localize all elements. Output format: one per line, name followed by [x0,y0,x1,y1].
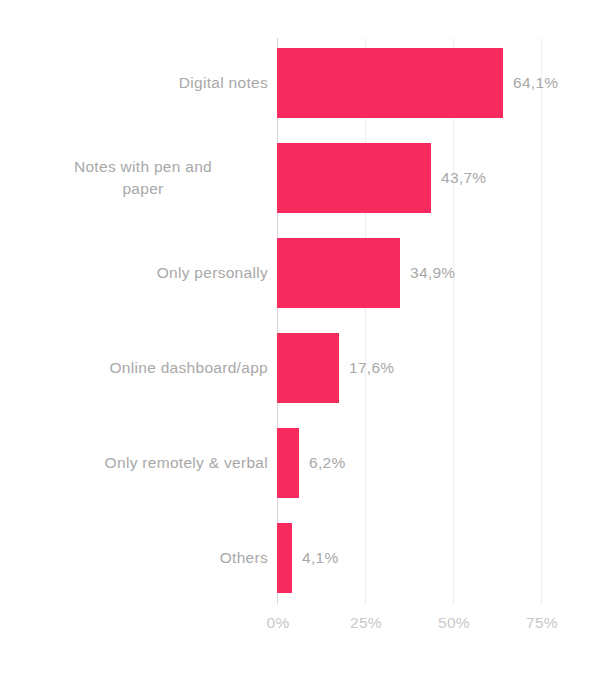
gridline-25 [365,38,366,604]
category-label: Notes with pen and paper [18,143,268,213]
category-label: Digital notes [18,48,268,118]
bar-online-dashboard-app[interactable] [277,333,339,403]
bar-row: Only personally 34,9% [0,238,605,308]
bar-row: Only remotely & verbal 6,2% [0,428,605,498]
category-label: Only personally [18,238,268,308]
category-label: Only remotely & verbal [18,428,268,498]
gridline-75 [541,38,542,604]
bar-others[interactable] [277,523,292,593]
plot-area: Digital notes 64,1% Notes with pen and p… [0,0,605,683]
x-tick-label-0: 0% [248,614,308,632]
bar-digital-notes[interactable] [277,48,503,118]
category-label: Others [18,523,268,593]
bar-notes-pen-paper[interactable] [277,143,431,213]
x-tick-label-75: 75% [512,614,572,632]
bar-only-personally[interactable] [277,238,400,308]
y-axis-spine [277,38,278,604]
bar-row: Online dashboard/app 17,6% [0,333,605,403]
value-label: 64,1% [513,48,558,118]
gridline-50 [453,38,454,604]
bar-only-remotely-verbal[interactable] [277,428,299,498]
value-label: 34,9% [410,238,455,308]
bar-row: Notes with pen and paper 43,7% [0,143,605,213]
value-label: 6,2% [309,428,346,498]
bar-chart: Digital notes 64,1% Notes with pen and p… [0,0,605,683]
value-label: 43,7% [441,143,486,213]
x-tick-label-50: 50% [424,614,484,632]
category-label: Online dashboard/app [18,333,268,403]
bar-row: Digital notes 64,1% [0,48,605,118]
value-label: 4,1% [302,523,339,593]
x-tick-label-25: 25% [336,614,396,632]
value-label: 17,6% [349,333,394,403]
bar-row: Others 4,1% [0,523,605,593]
